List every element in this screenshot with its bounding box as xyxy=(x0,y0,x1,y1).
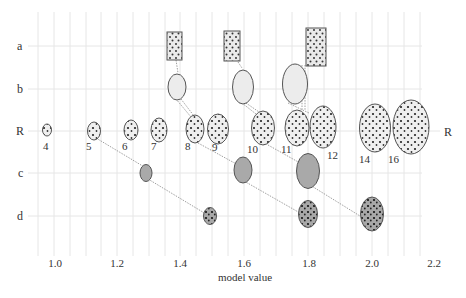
egg-r-6 xyxy=(124,120,138,140)
row-label-b: b xyxy=(17,82,23,96)
x-axis: 1.0 1.2 1.4 1.6 1.8 2.0 2.2 model value xyxy=(48,257,441,283)
egg-b-3 xyxy=(283,64,308,104)
row-b-items xyxy=(168,64,308,104)
egg-r-9 xyxy=(208,114,229,144)
egg-d-2 xyxy=(299,201,318,228)
r-label: 11 xyxy=(281,143,292,155)
row-label-d: d xyxy=(17,209,23,223)
row-label-r-right: R xyxy=(444,125,452,139)
x-tick-label: 1.2 xyxy=(110,257,124,269)
egg-b-1 xyxy=(168,74,186,100)
egg-c-3 xyxy=(297,154,320,189)
row-a-items xyxy=(167,28,326,66)
r-label: 16 xyxy=(388,153,400,165)
egg-b-2 xyxy=(233,70,254,104)
x-tick-label: 2.0 xyxy=(365,257,379,269)
x-tick-label: 1.6 xyxy=(237,257,251,269)
x-tick-label: 1.0 xyxy=(48,257,62,269)
egg-d-1 xyxy=(204,208,217,225)
egg-r-4 xyxy=(43,124,52,136)
egg-r-11 xyxy=(285,110,309,146)
sample-rect-a-2 xyxy=(224,31,240,61)
egg-c-2 xyxy=(234,157,252,183)
row-r-items xyxy=(43,100,430,154)
r-label: 9 xyxy=(212,141,218,153)
r-label: 4 xyxy=(43,140,49,152)
row-label-r: R xyxy=(16,124,24,138)
x-tick-label: 1.4 xyxy=(173,257,187,269)
egg-r-12 xyxy=(310,106,336,148)
row-label-a: a xyxy=(17,39,23,53)
sample-rect-a-3 xyxy=(306,28,326,66)
egg-r-5 xyxy=(88,122,101,140)
egg-r-8 xyxy=(186,115,204,143)
r-label: 10 xyxy=(247,143,259,155)
r-label: 8 xyxy=(185,140,191,152)
egg-r-14 xyxy=(360,104,391,152)
egg-r-16 xyxy=(393,100,429,154)
x-tick-label: 1.8 xyxy=(302,257,316,269)
r-label: 5 xyxy=(86,140,92,152)
x-tick-label: 2.2 xyxy=(427,257,441,269)
egg-r-10 xyxy=(252,111,275,145)
sample-rect-a-1 xyxy=(167,32,182,60)
r-label: 6 xyxy=(122,140,128,152)
egg-size-diagram: a b R c d R xyxy=(0,0,466,298)
r-label: 12 xyxy=(327,149,338,161)
r-label: 14 xyxy=(359,153,371,165)
egg-d-3 xyxy=(361,197,384,231)
r-label: 7 xyxy=(151,140,157,152)
x-axis-label: model value xyxy=(218,271,272,283)
row-label-c: c xyxy=(18,166,23,180)
egg-c-1 xyxy=(140,165,152,182)
egg-r-7 xyxy=(151,118,167,142)
